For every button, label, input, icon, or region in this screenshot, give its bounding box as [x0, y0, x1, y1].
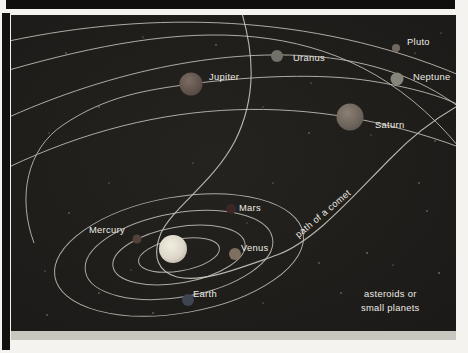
mercury-planet: [133, 235, 142, 244]
star: [46, 314, 47, 315]
mars-planet: [226, 204, 236, 214]
saturn-planet: [337, 104, 364, 131]
star: [340, 292, 341, 293]
star: [152, 312, 153, 313]
top-frame-bar: [6, 0, 455, 9]
star: [98, 106, 99, 107]
star: [426, 210, 427, 211]
star: [48, 132, 49, 133]
page-edge-strip: [11, 331, 456, 340]
neptune-label: Neptune: [413, 71, 451, 82]
star: [247, 223, 248, 224]
left-frame-stripe: [2, 13, 10, 350]
solar-system-svg: Mercury Venus Earth Mars Jupiter Saturn …: [11, 15, 456, 331]
jupiter-planet: [180, 73, 203, 96]
scanned-page: Mercury Venus Earth Mars Jupiter Saturn …: [0, 0, 468, 353]
neptune-planet: [391, 73, 404, 86]
venus-planet: [229, 248, 241, 260]
star: [44, 270, 45, 271]
star: [392, 264, 393, 265]
star: [108, 182, 109, 183]
star: [414, 52, 415, 53]
jupiter-label: Jupiter: [209, 71, 239, 82]
sun: [159, 235, 187, 263]
star: [371, 135, 372, 136]
star: [418, 182, 419, 183]
pluto-label: Pluto: [407, 36, 430, 47]
star: [440, 32, 441, 33]
star: [366, 252, 368, 254]
asteroids-label-line1: asteroids or: [364, 288, 417, 299]
mercury-label: Mercury: [89, 224, 125, 235]
star: [272, 182, 273, 183]
star: [438, 272, 440, 274]
star: [262, 302, 263, 303]
space-background: [11, 15, 456, 331]
star: [68, 212, 69, 213]
earth-label: Earth: [193, 288, 217, 299]
star: [308, 132, 309, 133]
mars-label: Mars: [239, 202, 261, 213]
star: [318, 262, 319, 263]
star: [310, 82, 311, 83]
star: [434, 140, 435, 141]
asteroids-label-line2: small planets: [361, 302, 420, 313]
star: [65, 52, 66, 53]
solar-system-diagram: Mercury Venus Earth Mars Jupiter Saturn …: [11, 15, 456, 331]
star: [131, 270, 132, 271]
star: [262, 106, 263, 107]
star: [98, 292, 99, 293]
venus-label: Venus: [241, 242, 269, 253]
star: [192, 162, 193, 163]
uranus-planet: [271, 50, 283, 62]
star: [215, 44, 216, 45]
star: [142, 36, 143, 37]
saturn-label: Saturn: [375, 119, 404, 130]
uranus-label: Uranus: [293, 52, 325, 63]
pluto-planet: [392, 44, 400, 52]
